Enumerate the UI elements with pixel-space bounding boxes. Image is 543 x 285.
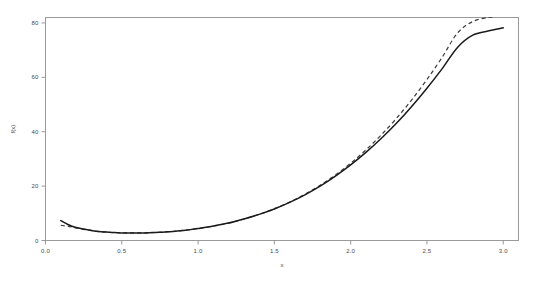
y-tick-label: 80 bbox=[22, 20, 39, 26]
y-tick-label: 20 bbox=[22, 183, 39, 189]
x-tick-label: 1.5 bbox=[270, 248, 279, 254]
x-tick-label: 1.0 bbox=[194, 248, 203, 254]
chart-canvas bbox=[0, 0, 543, 285]
y-tick-label: 40 bbox=[22, 129, 39, 135]
y-tick-label: 0 bbox=[22, 238, 39, 244]
y-tick-label: 60 bbox=[22, 74, 39, 80]
x-tick-label: 2.5 bbox=[422, 248, 431, 254]
plot-figure: 0.00.51.01.52.02.53.0 020406080 x f(x) bbox=[0, 0, 543, 285]
x-tick-label: 2.0 bbox=[346, 248, 355, 254]
x-tick-label: 3.0 bbox=[499, 248, 508, 254]
y-axis-title: f(x) bbox=[10, 125, 16, 134]
x-axis-title: x bbox=[281, 262, 284, 268]
x-tick-label: 0.5 bbox=[117, 248, 126, 254]
x-tick-label: 0.0 bbox=[41, 248, 50, 254]
